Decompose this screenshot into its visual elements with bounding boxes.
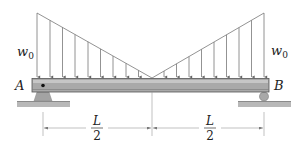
pin-support-A (17, 92, 70, 107)
dim-left-numerator: L (92, 114, 101, 128)
load-label-right: w0 (271, 43, 288, 60)
ground-left-edge (17, 101, 70, 102)
support-label-A: A (14, 78, 24, 93)
ground-right-edge (238, 101, 291, 102)
load-envelope-right (152, 13, 264, 78)
load-label-left: w0 (17, 44, 34, 61)
dim-label-right: L 2 (204, 114, 216, 143)
dimension-lines (43, 92, 264, 136)
beam (32, 79, 269, 93)
pin-dot (41, 84, 45, 88)
dim-right-denominator: 2 (206, 129, 214, 143)
dim-label-left: L 2 (91, 114, 103, 143)
dim-left-denominator: 2 (93, 129, 101, 143)
beam-diagram: w0 w0 A B L 2 L 2 (0, 0, 304, 149)
dim-right-numerator: L (205, 114, 214, 128)
roller-support-B (238, 92, 291, 107)
distributed-load-right (152, 13, 264, 78)
support-label-B: B (273, 78, 284, 93)
distributed-load-left (37, 13, 152, 78)
load-envelope-left (37, 13, 152, 78)
beam-highlight (33, 80, 268, 83)
pin-support-block (34, 92, 52, 101)
roller-circle (260, 92, 269, 101)
